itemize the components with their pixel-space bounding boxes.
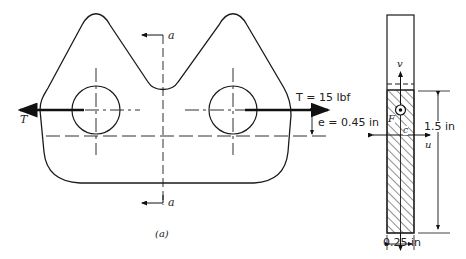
label-T-left: T (20, 114, 27, 125)
label-height: 1.5 in (424, 121, 455, 132)
label-F: F (388, 114, 395, 124)
link-plate-diagram (0, 0, 466, 259)
label-eccentricity: e = 0.45 in (318, 117, 379, 128)
hole-centerlines (60, 68, 260, 155)
label-width: 0.25 in (383, 237, 421, 248)
label-u: u (425, 140, 431, 150)
label-T-right: T = 15 lbf (296, 92, 350, 103)
label-v: v (397, 59, 403, 69)
label-c: c (403, 126, 408, 135)
label-section-a-top: a (168, 30, 175, 41)
figure-caption: (a) (155, 229, 169, 239)
section-arrow-bottom (142, 195, 163, 203)
label-section-a-bottom: a (168, 197, 175, 208)
